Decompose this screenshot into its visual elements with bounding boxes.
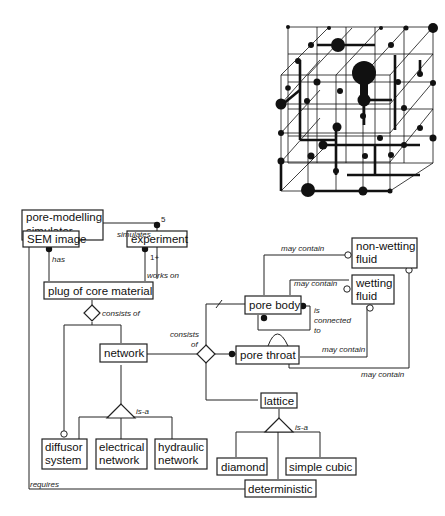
label-cardinality-5: 5 <box>161 215 166 224</box>
entity-label: SEM image <box>27 233 86 245</box>
label-may-contain-throat-wetting: may contain <box>322 345 366 354</box>
entity-plug-of-core-material: plug of core material <box>44 282 153 299</box>
entity-label: diamond <box>221 461 265 473</box>
consists-of-diamond-plug <box>84 305 100 321</box>
entity-pore-body: pore body <box>245 296 301 314</box>
entity-label: pore body <box>249 299 300 311</box>
entity-label: diffusor <box>45 441 83 453</box>
label-simulates: simulates <box>117 230 151 239</box>
entity-electrical-network: electrical network <box>96 439 147 469</box>
label-requires: requires <box>30 480 59 489</box>
label-is-a-lattice: is-a <box>295 423 308 432</box>
consists-of-diamond-network <box>197 345 215 363</box>
entity-label: wetting <box>355 277 392 289</box>
entity-lattice: lattice <box>261 393 297 408</box>
entity-label: network <box>104 347 145 359</box>
label-consists-of-plug: consists of <box>102 309 141 318</box>
label-connected: connected <box>314 316 351 325</box>
entity-hydraulic-network: hydraulic network <box>155 439 207 469</box>
label-may-contain-throat-non-wetting: may contain <box>361 370 405 379</box>
is-a-triangle-network <box>107 404 135 418</box>
entity-label: fluid <box>356 253 377 265</box>
entity-sem-image: SEM image <box>23 231 86 247</box>
entity-simple-cubic: simple cubic <box>286 458 356 475</box>
entity-label: non-wetting <box>356 240 415 252</box>
label-is: is <box>314 306 320 315</box>
entity-relationship-diagram: pore-modelling simulator SEM image exper… <box>0 0 445 516</box>
entity-label: simple cubic <box>289 461 353 473</box>
label-consists-network: consists <box>170 330 199 339</box>
entity-label: lattice <box>264 395 294 407</box>
entity-label: system <box>45 454 81 466</box>
entity-pore-throat: pore throat <box>236 346 299 364</box>
label-of-network: of <box>191 340 198 349</box>
entity-diffusor-system: diffusor system <box>42 439 87 469</box>
entity-non-wetting-fluid: non-wetting fluid <box>352 238 417 268</box>
entity-diamond: diamond <box>217 458 267 475</box>
entity-label: fluid <box>356 290 377 302</box>
label-may-contain-wetting: may contain <box>294 279 338 288</box>
label-is-a-network: is-a <box>136 407 149 416</box>
entity-label: electrical <box>99 441 144 453</box>
entity-label: pore throat <box>240 349 296 361</box>
entity-wetting-fluid: wetting fluid <box>352 275 394 304</box>
label-may-contain-non-wetting: may contain <box>281 244 325 253</box>
label-to: to <box>314 326 321 335</box>
label-has: has <box>52 255 65 264</box>
entity-label: pore-modelling <box>26 211 102 223</box>
entity-label: plug of core material <box>48 285 152 297</box>
entity-deterministic: deterministic <box>245 480 316 497</box>
is-a-triangle-lattice <box>265 418 293 432</box>
entity-label: network <box>99 454 140 466</box>
entity-label: deterministic <box>248 483 313 495</box>
entity-network: network <box>100 344 147 362</box>
entity-label: network <box>158 454 199 466</box>
pore-network-lattice-illustration <box>276 23 439 197</box>
label-works-on: works on <box>147 271 180 280</box>
label-cardinality-1-plus: 1+ <box>150 253 159 262</box>
entity-label: hydraulic <box>158 441 204 453</box>
